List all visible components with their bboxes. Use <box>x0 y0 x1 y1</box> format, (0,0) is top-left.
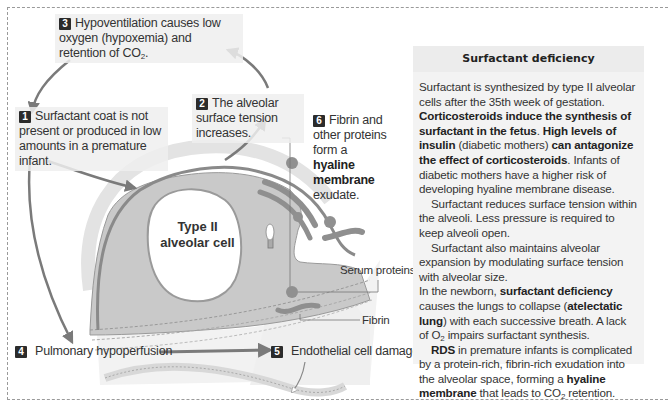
panel-title: Surfactant deficiency <box>413 46 644 72</box>
step-badge: 4 <box>15 346 27 358</box>
serum-proteins-label: Serum proteins <box>340 263 415 278</box>
paragraph-surface-tension: Surfactant reduces surface tension withi… <box>419 197 638 241</box>
paragraph-synthesis: Surfactant is synthesized by type II alv… <box>419 80 638 197</box>
paragraph-newborn: In the newborn, surfactant deficiency ca… <box>419 284 638 342</box>
step-badge: 1 <box>19 111 31 123</box>
fibrin-label: Fibrin <box>362 313 390 328</box>
step-3-label: 3Hypoventilation causes low oxygen (hypo… <box>55 14 243 63</box>
cell-label: Type IIalveolar cell <box>160 219 235 251</box>
step-6-label: 6Fibrin and other proteins form ahyaline… <box>313 113 411 203</box>
panel-body: Surfactant is synthesized by type II alv… <box>413 72 644 401</box>
surfactant-deficiency-panel: Surfactant deficiency Surfactant is synt… <box>413 46 644 364</box>
step-2-label: 2The alveolar surface tension increases. <box>192 94 304 143</box>
step-badge: 6 <box>313 115 325 127</box>
paragraph-rds: RDS in premature infants is complicated … <box>419 343 638 401</box>
step-badge: 5 <box>271 346 283 358</box>
step-badge: 2 <box>196 98 208 110</box>
step-badge: 3 <box>59 18 71 30</box>
step-5-label: 5Endothelial cell damage <box>271 344 419 359</box>
step-1-label: 1Surfactant coat is not present or produ… <box>15 107 168 171</box>
step-4-label: 4Pulmonary hypoperfusion <box>15 344 172 359</box>
paragraph-expansion: Surfactant also maintains alveolar expan… <box>419 241 638 285</box>
